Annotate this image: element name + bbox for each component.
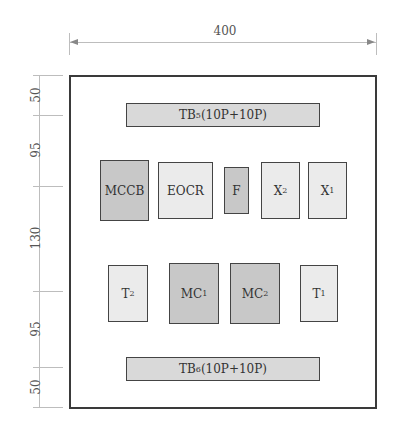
component-mc2: MC2 bbox=[230, 263, 280, 324]
arrow-right-icon bbox=[367, 39, 375, 45]
arrow-left-icon bbox=[70, 39, 78, 45]
tb6-base: TB bbox=[179, 362, 196, 376]
component-fuse: F bbox=[224, 167, 249, 214]
tick-1 bbox=[33, 115, 63, 116]
dim-label-50-bottom: 50 bbox=[29, 367, 43, 407]
width-extension-right bbox=[376, 33, 377, 55]
tick-2 bbox=[33, 186, 63, 187]
dim-label-50-top: 50 bbox=[29, 75, 43, 115]
tb5-base: TB bbox=[179, 108, 196, 122]
component-x1: X1 bbox=[308, 162, 347, 219]
width-label: 400 bbox=[205, 24, 245, 38]
component-t2: T2 bbox=[108, 265, 148, 322]
tick-3 bbox=[33, 291, 63, 292]
component-t1: T1 bbox=[300, 265, 338, 322]
dim-label-130: 130 bbox=[29, 218, 43, 258]
terminal-block-tb6: TB6(10P+10P) bbox=[126, 357, 320, 381]
width-dimension-line bbox=[69, 42, 376, 43]
component-x2: X2 bbox=[261, 162, 300, 219]
tick-5 bbox=[33, 407, 63, 408]
dim-label-95-bottom: 95 bbox=[29, 309, 43, 349]
dim-label-95-top: 95 bbox=[29, 130, 43, 170]
component-mc1: MC1 bbox=[169, 263, 219, 324]
component-mccb: MCCB bbox=[100, 160, 149, 221]
tb6-suffix: (10P+10P) bbox=[201, 362, 267, 376]
terminal-block-tb5: TB5(10P+10P) bbox=[126, 103, 320, 127]
component-eocr: EOCR bbox=[158, 162, 213, 219]
tb5-suffix: (10P+10P) bbox=[201, 108, 267, 122]
